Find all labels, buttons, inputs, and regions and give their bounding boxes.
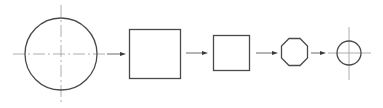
large-square (130, 30, 181, 79)
arrow-head (120, 52, 126, 56)
arrow-head (202, 51, 208, 55)
arrow-head (320, 51, 326, 55)
arrow-4 (311, 51, 326, 55)
arrow-3 (256, 51, 278, 55)
arrow-head (272, 51, 278, 55)
arrow-2 (186, 51, 208, 55)
large-circle-group (13, 5, 108, 103)
small-square (214, 36, 250, 71)
arrow-1 (107, 52, 126, 56)
octagon (282, 39, 308, 66)
small-circle-group (328, 27, 371, 80)
shape-sequence-diagram (0, 0, 383, 108)
